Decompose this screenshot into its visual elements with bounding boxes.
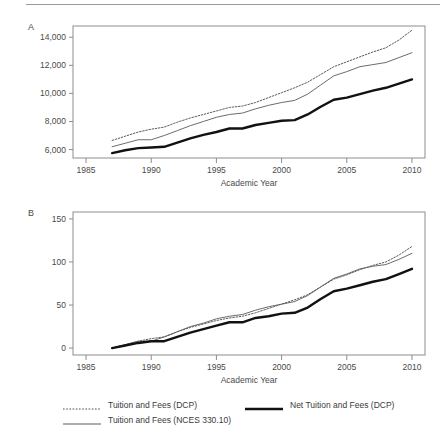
- series-line: [112, 253, 412, 348]
- legend-swatch-dotted: [62, 400, 102, 410]
- series-line: [112, 53, 412, 147]
- series-line: [112, 79, 412, 153]
- x-tick-label: 1985: [77, 165, 96, 175]
- figure-root: A 6,0008,00010,00012,00014,0001985199019…: [0, 0, 446, 431]
- x-tick-label: 2010: [403, 165, 422, 175]
- x-tick-label: 1995: [207, 165, 226, 175]
- x-tick-label: 2000: [272, 165, 291, 175]
- legend-entry-tuition-fees-nces: Tuition and Fees (NCES 330.10): [62, 413, 231, 427]
- y-tick-label: 50: [57, 300, 67, 310]
- y-tick-label: 14,000: [40, 32, 66, 42]
- legend-label: Net Tuition and Fees (DCP): [290, 400, 394, 410]
- y-tick-label: 0: [61, 343, 66, 353]
- panel-a-plot: 6,0008,00010,00012,00014,000198519901995…: [0, 18, 446, 208]
- legend-label: Tuition and Fees (DCP): [108, 400, 197, 410]
- y-tick-label: 10,000: [40, 88, 66, 98]
- panel-a: A 6,0008,00010,00012,00014,0001985199019…: [0, 18, 446, 208]
- panel-b: B 050100150198519901995200020052010Acade…: [0, 206, 446, 396]
- x-tick-label: 2005: [337, 165, 356, 175]
- x-tick-label: 1995: [207, 362, 226, 372]
- panel-b-plot: 050100150198519901995200020052010Academi…: [0, 206, 446, 396]
- y-tick-label: 150: [52, 214, 66, 224]
- x-tick-label: 1990: [142, 165, 161, 175]
- y-tick-label: 12,000: [40, 60, 66, 70]
- series-line: [112, 246, 412, 348]
- y-tick-label: 100: [52, 257, 66, 267]
- legend-swatch-thick-solid: [244, 400, 284, 410]
- legend-entry-net-tuition-fees-dcp: Net Tuition and Fees (DCP): [244, 398, 394, 412]
- x-tick-label: 2000: [272, 362, 291, 372]
- x-tick-label: 2005: [337, 362, 356, 372]
- x-axis-title: Academic Year: [221, 375, 278, 385]
- x-tick-label: 1990: [142, 362, 161, 372]
- header-divider: [26, 4, 440, 5]
- x-tick-label: 2010: [403, 362, 422, 372]
- x-axis-title: Academic Year: [221, 178, 278, 188]
- legend-label: Tuition and Fees (NCES 330.10): [108, 415, 231, 425]
- legend-entry-tuition-fees-dcp: Tuition and Fees (DCP): [62, 398, 197, 412]
- x-tick-label: 1985: [77, 362, 96, 372]
- y-tick-label: 6,000: [45, 145, 67, 155]
- legend: Tuition and Fees (DCP) Net Tuition and F…: [0, 393, 446, 431]
- y-tick-label: 8,000: [45, 116, 67, 126]
- legend-swatch-thin-solid: [62, 415, 102, 425]
